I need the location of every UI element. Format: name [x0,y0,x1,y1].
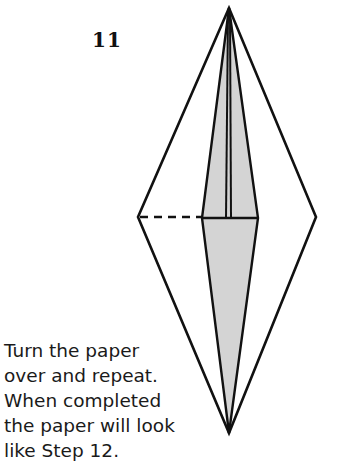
instruction-line: the paper will look [4,413,244,438]
instruction-line: like Step 12. [4,438,244,463]
instruction-line: over and repeat. [4,363,244,388]
instruction-line: Turn the paper [4,338,244,363]
center-line-right [230,14,231,218]
instruction-line: When completed [4,388,244,413]
instruction-text: Turn the paper over and repeat. When com… [4,338,244,463]
